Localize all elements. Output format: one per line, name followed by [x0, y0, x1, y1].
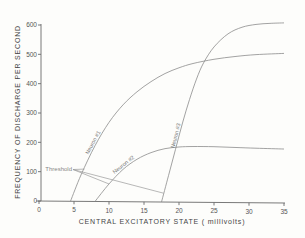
- x-tick-label: 5: [72, 206, 76, 213]
- y-tick-label: 600: [26, 21, 37, 28]
- y-axis: 0100200300400500600 FREQUENCY OF DISCHAR…: [14, 21, 41, 204]
- y-tick-label: 200: [26, 139, 37, 146]
- y-tick-label: 100: [26, 168, 37, 175]
- x-axis-label: CENTRAL EXCITATORY STATE ( millivolts): [79, 218, 246, 226]
- chart: 0100200300400500600 FREQUENCY OF DISCHAR…: [0, 0, 305, 238]
- x-tick-label: 10: [105, 207, 113, 214]
- y-tick-label: 500: [26, 51, 37, 58]
- x-axis-line: [36, 201, 285, 203]
- y-tick-label: 300: [26, 109, 37, 116]
- y-axis-label: FREQUENCY OF DISCHARGE PER SECOND: [14, 25, 22, 199]
- series-label-neuron-1: Neuron #1: [84, 130, 102, 155]
- series-label-neuron-3: Neuron #3: [169, 123, 181, 149]
- threshold-label: Threshold: [45, 166, 72, 172]
- x-axis: 05101520253035 CENTRAL EXCITATORY STATE …: [36, 201, 288, 226]
- series-label-neuron-2: Neuron #2: [112, 154, 136, 175]
- x-tick-label: 15: [140, 207, 148, 214]
- x-tick-label: 0: [37, 206, 41, 213]
- x-tick-label: 25: [210, 207, 218, 214]
- x-tick-label: 30: [245, 208, 253, 215]
- threshold-pointer: [73, 170, 164, 194]
- plot-area: Neuron #1Neuron #2Neuron #3: [71, 23, 285, 202]
- series-line-neuron-3: [162, 23, 285, 202]
- x-tick-label: 20: [175, 207, 183, 214]
- x-tick-label: 35: [280, 208, 288, 215]
- series-line-neuron-2: [95, 147, 284, 202]
- y-tick-label: 400: [26, 80, 37, 87]
